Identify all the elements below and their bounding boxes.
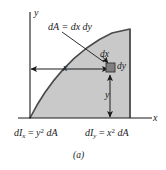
eq-x-eqsign: = xyxy=(28,127,34,138)
eq-x-exponent: 2 xyxy=(41,127,44,134)
eq-x-rhs: dA xyxy=(46,127,57,138)
figure-container: y x dA = dx dy dx dy x y dIx = y2 dA dIy… xyxy=(0,0,166,170)
eq-y-rhs: dA xyxy=(117,127,128,138)
y-dimension-label: y xyxy=(105,90,109,100)
equation-moment-y: dIy = x2 dA xyxy=(85,128,129,140)
eq-y-exponent: 2 xyxy=(112,127,115,134)
element-area-label: dA = dx dy xyxy=(48,22,92,32)
x-axis-label: x xyxy=(153,113,157,123)
y-axis-label: y xyxy=(34,8,38,18)
shaded-region xyxy=(30,29,130,118)
element-dy-label: dy xyxy=(117,62,126,72)
figure-caption: (a) xyxy=(73,151,84,161)
element-dx-label: dx xyxy=(100,50,109,60)
eq-y-eqsign: = xyxy=(99,127,105,138)
x-dimension-label: x xyxy=(63,63,67,73)
equation-moment-x: dIx = y2 dA xyxy=(14,128,58,140)
differential-area-element xyxy=(106,63,115,72)
